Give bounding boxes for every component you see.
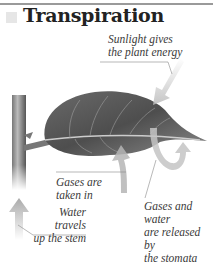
- label-line: taken in: [56, 189, 102, 202]
- water-up-arrow-icon: [9, 198, 29, 240]
- label-line: Water travels: [32, 206, 86, 232]
- label-line: are released by: [144, 226, 213, 252]
- label-line: Sunlight gives: [108, 33, 182, 46]
- label-gases-in: Gases are taken in: [56, 176, 102, 202]
- stem-illustration: [12, 95, 26, 190]
- label-line: Gases and water: [144, 200, 213, 226]
- label-line: up the stem: [32, 232, 86, 245]
- label-line: the plant energy: [108, 46, 182, 59]
- label-gases-out: Gases and water are released by the stom…: [144, 200, 213, 265]
- label-line: Gases are: [56, 176, 102, 189]
- label-sunlight: Sunlight gives the plant energy: [108, 33, 182, 59]
- label-water: Water travels up the stem: [32, 206, 86, 245]
- sunlight-arrow-icon: [153, 58, 184, 105]
- label-line: the stomata: [144, 252, 213, 265]
